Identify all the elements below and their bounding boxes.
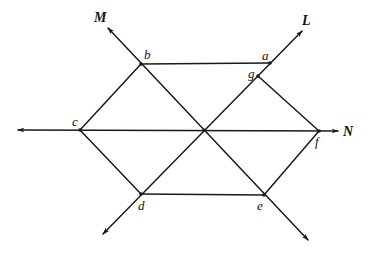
geometry-diagram: a b c d e f g M L N xyxy=(0,0,370,258)
label-line-m: M xyxy=(93,10,107,25)
label-d: d xyxy=(138,198,145,213)
point-e xyxy=(262,193,266,197)
label-b: b xyxy=(144,47,151,62)
point-f xyxy=(317,129,321,133)
point-center xyxy=(202,128,205,131)
label-a: a xyxy=(262,48,269,63)
segment-g-f xyxy=(258,76,319,131)
segment-d-e xyxy=(141,194,264,195)
line-l xyxy=(103,31,302,234)
label-g: g xyxy=(248,66,255,81)
label-f: f xyxy=(315,134,321,149)
label-line-n: N xyxy=(342,124,354,139)
point-g xyxy=(256,74,260,78)
line-n xyxy=(18,130,338,131)
point-b xyxy=(139,62,143,66)
label-c: c xyxy=(72,114,78,129)
segment-e-f xyxy=(264,131,319,195)
label-line-l: L xyxy=(301,13,311,28)
segment-b-a xyxy=(141,63,270,64)
point-d xyxy=(139,192,143,196)
point-c xyxy=(78,128,82,132)
segment-c-d xyxy=(80,130,141,194)
segment-b-c xyxy=(80,64,141,130)
point-a xyxy=(268,61,272,65)
label-e: e xyxy=(257,198,263,213)
